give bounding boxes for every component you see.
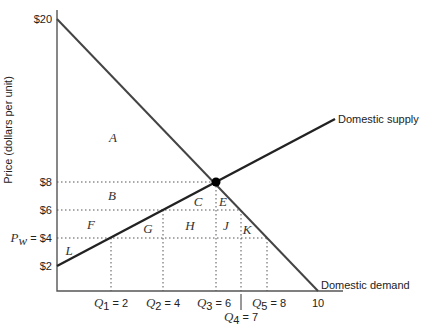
y-axis-label: Price (dollars per unit)	[2, 76, 14, 184]
domestic-demand-curve	[57, 19, 318, 291]
area-label-l: L	[64, 243, 72, 258]
x-tick-10: 10	[312, 297, 324, 309]
surplus-chart: Price (dollars per unit) $20 $8 $6 $2 Pw…	[0, 0, 421, 328]
area-label-g: G	[143, 221, 153, 236]
equilibrium-point	[212, 178, 221, 187]
area-label-h: H	[184, 218, 195, 233]
y-tick-20: $20	[34, 13, 52, 25]
area-label-c: C	[194, 194, 203, 209]
area-label-j: J	[223, 218, 230, 233]
y-tick-8: $8	[40, 176, 52, 188]
x-tick-q4: Q4 = 7	[224, 309, 258, 326]
area-label-e: E	[218, 194, 227, 209]
area-label-f: F	[86, 217, 96, 232]
x-tick-q5: Q5 = 8	[252, 295, 286, 312]
area-label-k: K	[242, 222, 253, 237]
domestic-supply-label: Domestic supply	[338, 113, 419, 125]
x-tick-q1: Q1 = 2	[94, 295, 128, 312]
y-tick-2: $2	[40, 260, 52, 272]
world-price-label: Pw = $4	[10, 230, 52, 248]
x-tick-q2: Q2 = 4	[146, 295, 180, 312]
area-label-a: A	[108, 130, 117, 145]
domestic-demand-label: Domestic demand	[321, 279, 410, 291]
y-tick-6: $6	[40, 204, 52, 216]
axes	[57, 10, 343, 291]
area-label-b: B	[108, 188, 116, 203]
domestic-supply-curve	[57, 119, 335, 266]
